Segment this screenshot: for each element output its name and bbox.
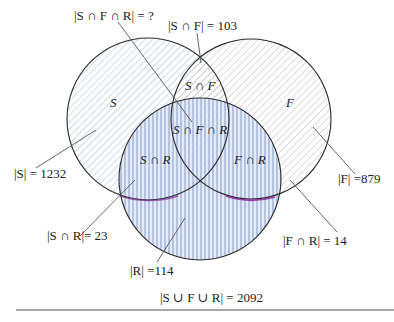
label-s: S (110, 95, 117, 110)
annotation-union: |S ∪ F ∪ R| = 2092 (160, 290, 263, 305)
annotation-s: |S| = 1232 (14, 166, 66, 181)
leader-fr (290, 180, 337, 232)
annotation-sr: |S ∩ R|= 23 (47, 228, 108, 243)
label-s-and-f-and-r: S ∩ F ∩ R (173, 122, 227, 137)
label-s-and-r: S ∩ R (140, 152, 170, 167)
annotation-sf: |S ∩ F| = 103 (168, 18, 237, 33)
annotation-sfr: |S ∩ F ∩ R| = ? (74, 8, 154, 23)
label-f: F (285, 95, 295, 110)
label-s-and-f: S ∩ F (185, 78, 216, 93)
annotation-fr: |F ∩ R| = 14 (283, 233, 347, 248)
annotation-f: |F| =879 (338, 171, 381, 186)
label-f-and-r: F ∩ R (233, 152, 266, 167)
annotation-r: |R| =114 (130, 263, 174, 278)
venn-diagram: S F S ∩ F S ∩ F ∩ R S ∩ R F ∩ R |S ∩ F ∩… (0, 0, 394, 322)
